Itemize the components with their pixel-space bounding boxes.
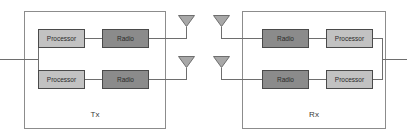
rx-chain2-radio-label: Radio — [277, 76, 294, 83]
tx-label: Tx — [91, 110, 100, 119]
tx-chain1-processor[interactable]: Processor — [39, 30, 85, 48]
rx-chain2-antenna-icon — [214, 57, 230, 80]
rx-chain2-processor[interactable]: Processor — [327, 71, 373, 89]
rx-chain1-processor[interactable]: Processor — [327, 30, 373, 48]
rx-antenna1-triangle — [214, 16, 230, 27]
transmitter-group: Processor Radio Processor Radio — [0, 12, 195, 129]
rx-chain1-radio-label: Radio — [277, 35, 294, 42]
tx-chain2-antenna-icon — [179, 57, 195, 80]
rx-chain1-antenna-icon — [214, 16, 230, 39]
diagram-canvas: Processor Radio Processor Radio — [0, 0, 407, 137]
rx-chain1-radio[interactable]: Radio — [263, 30, 309, 48]
rx-chain1-processor-label: Processor — [335, 35, 365, 42]
tx-chain1-processor-label: Processor — [47, 35, 77, 42]
tx-chain1-radio-label: Radio — [117, 35, 134, 42]
tx-chain2-radio[interactable]: Radio — [103, 71, 149, 89]
rx-label: Rx — [309, 110, 319, 119]
tx-chain1-antenna-icon — [179, 16, 195, 39]
tx-chain2-processor[interactable]: Processor — [39, 71, 85, 89]
tx-chain2-radio-label: Radio — [117, 76, 134, 83]
rx-chain2-radio[interactable]: Radio — [263, 71, 309, 89]
receiver-group: Radio Processor Radio Processor Rx — [214, 12, 407, 129]
rx-antenna2-triangle — [214, 57, 230, 68]
tx-antenna2-triangle — [179, 57, 195, 68]
tx-chain1-radio[interactable]: Radio — [103, 30, 149, 48]
tx-chain2-processor-label: Processor — [47, 76, 77, 83]
rx-chain2-processor-label: Processor — [335, 76, 365, 83]
tx-antenna1-triangle — [179, 16, 195, 27]
block-diagram: Processor Radio Processor Radio — [0, 0, 407, 137]
